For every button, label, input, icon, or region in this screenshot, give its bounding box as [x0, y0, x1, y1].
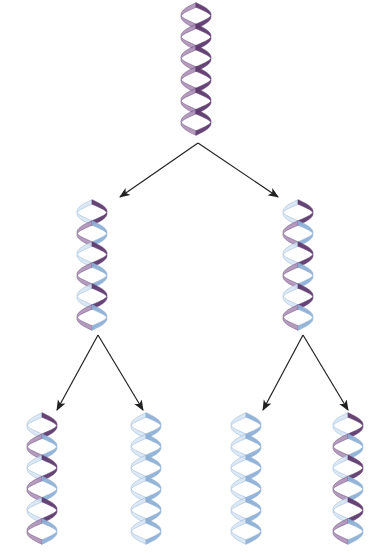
new-strand-segment — [246, 519, 261, 545]
new-strand-segment — [131, 434, 146, 460]
new-strand-segment — [231, 413, 246, 439]
new-strand-segment — [77, 284, 92, 310]
helices-layer — [27, 3, 363, 545]
dna-helix-gen2-3 — [231, 413, 261, 545]
parental-strand-segment — [42, 413, 57, 439]
new-strand-segment — [283, 200, 298, 226]
new-strand-segment — [348, 476, 363, 502]
arrow-parent-to-left-icon — [120, 143, 198, 197]
dna-helix-gen2-4 — [333, 413, 363, 545]
new-strand-segment — [42, 434, 57, 460]
new-strand-segment — [348, 519, 363, 545]
parental-strand-segment — [27, 519, 42, 545]
new-strand-segment — [146, 413, 161, 439]
parental-strand-segment — [181, 45, 196, 71]
arrows-layer — [57, 143, 348, 410]
new-strand-segment — [146, 455, 161, 481]
new-strand-segment — [333, 455, 348, 481]
new-strand-segment — [283, 284, 298, 310]
new-strand-segment — [77, 200, 92, 226]
new-strand-segment — [92, 263, 107, 289]
new-strand-segment — [131, 497, 146, 523]
new-strand-segment — [131, 519, 146, 545]
parental-strand-segment — [196, 24, 211, 50]
parental-strand-segment — [27, 434, 42, 460]
new-strand-segment — [333, 497, 348, 523]
new-strand-segment — [246, 413, 261, 439]
parental-strand-segment — [348, 497, 363, 523]
new-strand-segment — [42, 519, 57, 545]
parental-strand-segment — [92, 200, 107, 226]
new-strand-segment — [246, 455, 261, 481]
new-strand-segment — [92, 305, 107, 331]
parental-strand-segment — [333, 434, 348, 460]
new-strand-segment — [131, 455, 146, 481]
parental-strand-segment — [42, 497, 57, 523]
parental-strand-segment — [348, 413, 363, 439]
parental-strand-segment — [181, 109, 196, 135]
new-strand-segment — [77, 242, 92, 268]
new-strand-segment — [246, 497, 261, 523]
new-strand-segment — [42, 476, 57, 502]
new-strand-segment — [92, 221, 107, 247]
parental-strand-segment — [181, 3, 196, 29]
dna-helix-parent — [181, 3, 211, 136]
new-strand-segment — [246, 476, 261, 502]
new-strand-segment — [298, 305, 313, 331]
parental-strand-segment — [77, 221, 92, 247]
new-strand-segment — [231, 476, 246, 502]
parental-strand-segment — [348, 455, 363, 481]
new-strand-segment — [283, 242, 298, 268]
new-strand-segment — [27, 413, 42, 439]
parental-strand-segment — [42, 455, 57, 481]
parental-strand-segment — [181, 67, 196, 93]
parental-strand-segment — [283, 305, 298, 331]
parental-strand-segment — [181, 88, 196, 114]
parental-strand-segment — [92, 284, 107, 310]
dna-replication-diagram — [0, 0, 392, 558]
new-strand-segment — [298, 221, 313, 247]
arrow-left-to-2-icon — [98, 335, 143, 410]
arrow-left-to-1-icon — [57, 335, 98, 410]
new-strand-segment — [231, 434, 246, 460]
new-strand-segment — [146, 434, 161, 460]
new-strand-segment — [231, 497, 246, 523]
dna-helix-gen1-left — [77, 200, 107, 331]
new-strand-segment — [231, 519, 246, 545]
parental-strand-segment — [196, 109, 211, 135]
parental-strand-segment — [196, 45, 211, 71]
parental-strand-segment — [298, 200, 313, 226]
arrow-parent-to-right-icon — [198, 143, 278, 197]
new-strand-segment — [131, 413, 146, 439]
new-strand-segment — [246, 434, 261, 460]
parental-strand-segment — [27, 476, 42, 502]
parental-strand-segment — [181, 24, 196, 50]
parental-strand-segment — [333, 519, 348, 545]
new-strand-segment — [146, 519, 161, 545]
parental-strand-segment — [333, 476, 348, 502]
parental-strand-segment — [196, 67, 211, 93]
new-strand-segment — [27, 497, 42, 523]
parental-strand-segment — [77, 263, 92, 289]
arrow-right-to-3-icon — [263, 335, 303, 410]
new-strand-segment — [231, 455, 246, 481]
dna-helix-gen2-2 — [131, 413, 161, 545]
parental-strand-segment — [77, 305, 92, 331]
parental-strand-segment — [92, 242, 107, 268]
new-strand-segment — [27, 455, 42, 481]
arrow-right-to-4-icon — [303, 335, 348, 410]
new-strand-segment — [146, 497, 161, 523]
new-strand-segment — [348, 434, 363, 460]
parental-strand-segment — [298, 242, 313, 268]
parental-strand-segment — [298, 284, 313, 310]
dna-helix-gen2-1 — [27, 413, 57, 545]
parental-strand-segment — [196, 3, 211, 29]
new-strand-segment — [146, 476, 161, 502]
parental-strand-segment — [283, 263, 298, 289]
parental-strand-segment — [283, 221, 298, 247]
dna-helix-gen1-right — [283, 200, 313, 331]
new-strand-segment — [333, 413, 348, 439]
new-strand-segment — [131, 476, 146, 502]
parental-strand-segment — [196, 88, 211, 114]
new-strand-segment — [298, 263, 313, 289]
